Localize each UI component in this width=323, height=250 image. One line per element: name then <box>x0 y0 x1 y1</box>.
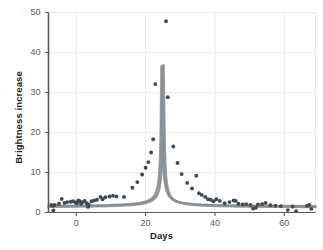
axis-lines <box>49 13 316 213</box>
data-point <box>185 181 189 185</box>
plot-svg <box>0 0 323 250</box>
data-point <box>153 82 157 86</box>
data-point <box>144 166 148 170</box>
data-point <box>218 199 222 203</box>
data-point <box>223 201 227 205</box>
x-tick-label: 60 <box>271 218 297 228</box>
data-point <box>237 202 241 206</box>
data-point <box>149 151 153 155</box>
data-point <box>146 160 150 164</box>
x-tick-label: 20 <box>133 218 159 228</box>
y-tick-label: 10 <box>19 167 41 177</box>
fit-curves <box>49 64 316 207</box>
data-point <box>260 202 264 206</box>
data-point <box>244 202 248 206</box>
x-tick-label: 40 <box>202 218 228 228</box>
chart-figure: Brightness increase Days 010203040500204… <box>0 0 323 250</box>
data-point <box>135 180 139 184</box>
data-point <box>57 202 61 206</box>
data-point <box>53 203 57 207</box>
data-points <box>49 19 313 213</box>
y-tick-label: 20 <box>19 127 41 137</box>
data-point <box>95 198 99 202</box>
data-point <box>273 204 277 208</box>
data-point <box>268 203 272 207</box>
fit-curve-0 <box>49 66 316 207</box>
y-axis-title: Brightness increase <box>13 53 24 183</box>
data-point <box>291 205 295 209</box>
y-tick-label: 40 <box>19 47 41 57</box>
data-point <box>108 195 112 199</box>
data-point <box>164 19 168 23</box>
data-point <box>214 197 218 201</box>
y-tick-label: 0 <box>19 207 41 217</box>
fit-curve-outline-1 <box>49 64 316 207</box>
data-point <box>140 173 144 177</box>
fit-curve-1 <box>49 64 316 207</box>
fit-curve-outline-0 <box>49 66 316 207</box>
data-point <box>248 203 252 207</box>
data-point <box>180 172 184 176</box>
x-axis-title: Days <box>0 230 323 241</box>
data-point <box>166 95 170 99</box>
data-point <box>307 203 311 207</box>
data-point <box>264 201 268 205</box>
data-point <box>228 200 232 204</box>
data-point <box>130 186 134 190</box>
data-point <box>111 194 115 198</box>
data-point <box>122 195 126 199</box>
data-point <box>65 200 69 204</box>
data-point <box>176 161 180 165</box>
data-point <box>234 199 238 203</box>
data-point <box>241 203 245 207</box>
data-point <box>87 203 91 207</box>
gridlines <box>49 13 316 213</box>
data-point <box>194 174 198 178</box>
y-tick-label: 50 <box>19 7 41 17</box>
data-point <box>60 197 64 201</box>
y-tick-label: 30 <box>19 87 41 97</box>
data-point <box>200 193 204 197</box>
data-point <box>171 145 175 149</box>
data-point <box>286 208 290 212</box>
data-point <box>256 203 260 207</box>
data-point <box>309 207 313 211</box>
data-point <box>51 209 55 213</box>
x-tick-label: 0 <box>63 218 89 228</box>
data-point <box>254 206 258 210</box>
data-point <box>103 195 107 199</box>
data-point <box>151 137 155 141</box>
data-point <box>279 204 283 208</box>
data-point <box>115 195 119 199</box>
data-point <box>190 187 194 191</box>
